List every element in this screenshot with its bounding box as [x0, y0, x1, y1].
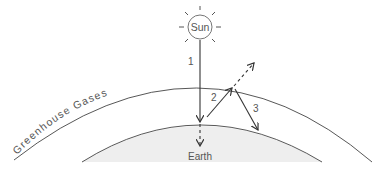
- arrow-1-label: 1: [188, 56, 194, 67]
- earth-label: Earth: [188, 151, 212, 162]
- sun-label: Sun: [191, 21, 210, 33]
- arrow-3-label: 3: [253, 103, 259, 114]
- atmosphere-label: Greenhouse Gases: [10, 86, 109, 157]
- greenhouse-diagram: Greenhouse Gases Sun 1 2 3 Earth: [0, 0, 377, 172]
- arrow-2-label: 2: [211, 92, 217, 103]
- arrow-2-escape: [234, 63, 254, 86]
